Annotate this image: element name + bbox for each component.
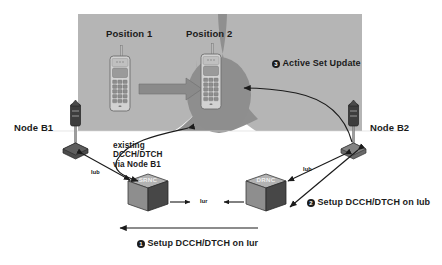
step-1-label: 1Setup DCCH/DTCH on Iur	[137, 238, 258, 248]
step-1-text: Setup DCCH/DTCH on Iur	[148, 238, 259, 248]
step-3-label: 3Active Set Update	[272, 58, 361, 68]
iub-left-label: Iub	[91, 169, 100, 175]
iur-label: Iur	[200, 198, 207, 204]
step-2-label: 2Setup DCCH/DTCH on Iub	[307, 197, 430, 207]
iub-right-label: Iub	[303, 166, 312, 172]
arrow-step-1-connector	[244, 210, 260, 228]
step-1-bullet: 1	[137, 240, 145, 248]
position2-label: Position 2	[186, 29, 232, 40]
step-2-bullet: 2	[307, 199, 315, 207]
step-2-text: Setup DCCH/DTCH on Iub	[318, 197, 431, 207]
step-3-bullet: 3	[272, 60, 280, 68]
step-3-text: Active Set Update	[283, 58, 361, 68]
position1-label: Position 1	[106, 29, 152, 40]
arrow-step-3-active-set-update	[244, 88, 352, 142]
existing-dcch-dtch-label: existing DCCH/DTCH via Node B1	[113, 141, 163, 169]
node-b1-label: Node B1	[14, 123, 53, 134]
diagram-canvas: Position 1 Position 2 Node B1 Node B2 SR…	[0, 0, 442, 265]
node-b2-label: Node B2	[370, 123, 409, 134]
